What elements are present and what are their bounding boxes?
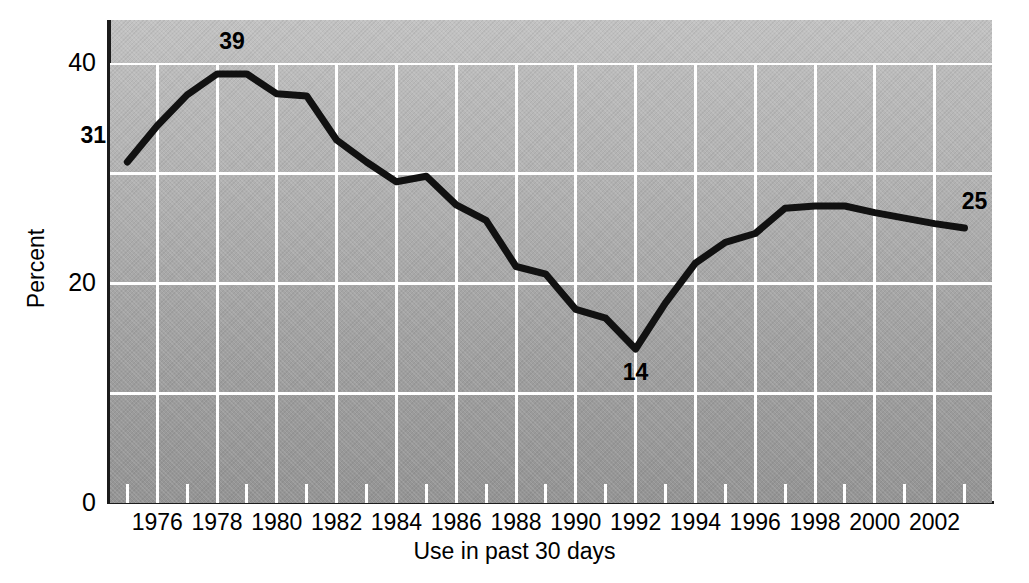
annotation-39: 39 [202, 28, 262, 55]
data-line-series [110, 63, 992, 503]
y-tick-label-0: 0 [26, 490, 96, 515]
annotation-31: 31 [63, 122, 123, 149]
annotation-14: 14 [606, 359, 666, 386]
chart-figure: 02040 Percent 19761978198019821984198619… [0, 0, 1029, 583]
series-line [127, 74, 964, 349]
y-axis-title: Percent [23, 189, 50, 349]
annotation-25: 25 [944, 188, 1004, 215]
x-tick-label-2002: 2002 [895, 509, 975, 536]
y-tick-label-40: 40 [26, 50, 96, 75]
plot-area [110, 63, 992, 503]
x-axis-title: Use in past 30 days [0, 538, 1029, 565]
